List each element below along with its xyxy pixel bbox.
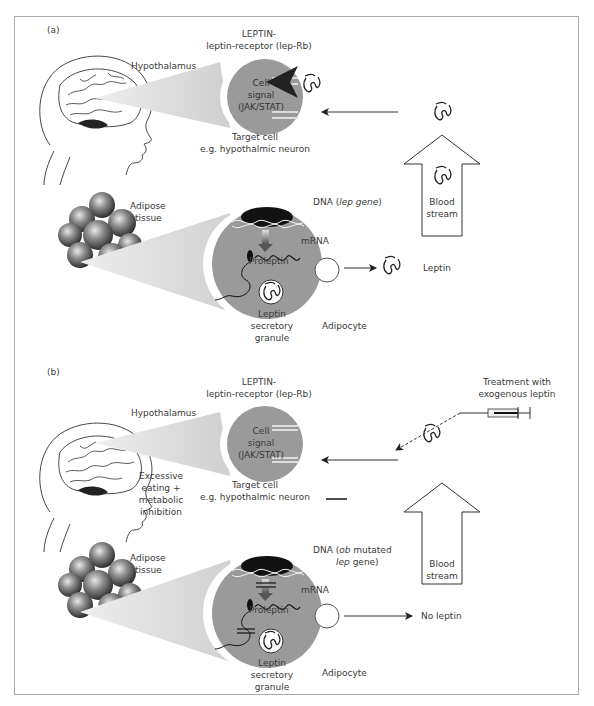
mrna-label-b: mRNA — [301, 584, 329, 596]
blood-stream-label-b: Blood stream — [420, 558, 464, 582]
hypothalamus-label-a: Hypothalamus — [131, 60, 196, 72]
proleptin-label-b: Proleptin — [249, 604, 289, 616]
target-cell-label-a: Target cell e.g. hypothalmic neuron — [200, 131, 310, 155]
granule-label-b: Leptin secretory granule — [250, 657, 294, 693]
receptor-label-a: LEPTIN- leptin-receptor (lep-Rb) — [204, 28, 314, 52]
dna-label-b: DNA (ob mutated lep gene) — [313, 544, 392, 568]
hypothalamus-label-b: Hypothalamus — [131, 407, 196, 419]
syringe-icon — [460, 407, 530, 419]
cell-signal-label-b: Cell signal (JAK/STAT) — [230, 425, 292, 461]
adipose-label-a: Adipose tissue — [130, 200, 166, 224]
panel-a-label: (a) — [47, 24, 60, 36]
blood-stream-arrow-a — [404, 135, 480, 236]
treatment-label: Treatment with exogenous leptin — [472, 376, 562, 400]
leptin-label: Leptin — [423, 262, 451, 274]
panel-b-label: (b) — [47, 366, 60, 378]
no-leptin-label: No leptin — [421, 610, 462, 622]
mrna-label-a: mRNA — [301, 235, 329, 247]
diagram-graphics — [0, 0, 594, 706]
cell-signal-label-a: Cell signal (JAK/STAT) — [230, 77, 292, 113]
adipocyte-label-a: Adipocyte — [322, 320, 367, 332]
target-cell-label-b: Target cell e.g. hypothalmic neuron — [200, 479, 310, 503]
proleptin-label-a: Proleptin — [249, 255, 289, 267]
adipocyte-label-b: Adipocyte — [322, 667, 367, 679]
receptor-label-b: LEPTIN- leptin-receptor (lep-Rb) — [204, 376, 314, 400]
excessive-eating-label: Excessive eating + metabolic inhibition — [136, 470, 186, 518]
head-brain-icon — [40, 56, 152, 185]
adipose-label-b: Adipose tissue — [130, 552, 166, 576]
blood-stream-label-a: Blood stream — [420, 196, 464, 220]
granule-label-a: Leptin secretory granule — [250, 308, 294, 344]
dna-label-a: DNA (lep gene) — [313, 196, 382, 208]
